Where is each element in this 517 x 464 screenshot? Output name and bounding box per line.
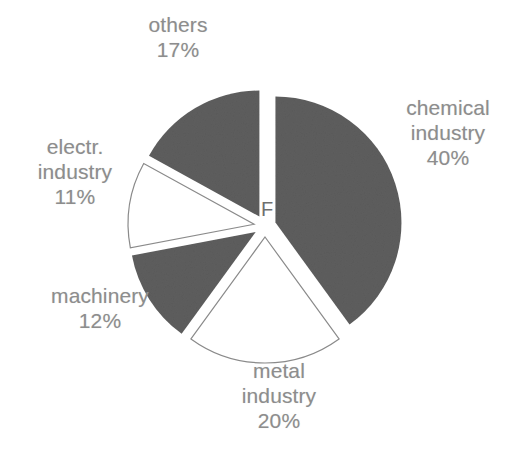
pie-chart-figure: F others 17% chemical industry 40% elect…	[0, 0, 517, 464]
center-annotation-label: F	[261, 198, 273, 220]
pie-label-machinery: machinery 12%	[16, 283, 184, 333]
pie-label-others: others 17%	[108, 12, 248, 62]
pie-label-electr-industry: electr. industry 11%	[14, 134, 136, 209]
pie-label-chemical-industry: chemical industry 40%	[382, 95, 514, 170]
pie-label-metal-industry: metal industry 20%	[204, 358, 354, 433]
